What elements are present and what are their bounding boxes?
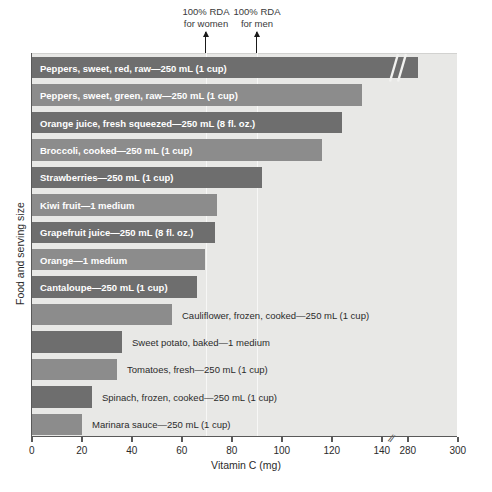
rda-men-annotation: 100% RDA for men [222, 6, 292, 29]
x-axis-tick-label: 80 [226, 445, 237, 456]
bar [32, 331, 122, 353]
bar-label: Cauliflower, frozen, cooked—250 mL (1 cu… [182, 309, 369, 320]
bar-label: Marinara sauce—250 mL (1 cup) [92, 419, 231, 430]
bar-label: Grapefruit juice—250 mL (8 fl. oz.) [40, 227, 193, 238]
bar: Peppers, sweet, red, raw—250 mL (1 cup) [32, 57, 418, 79]
rda-women-arrow-icon [205, 32, 206, 53]
x-axis-tick-label: 140 [373, 445, 390, 456]
rda-men-arrow-icon [256, 32, 257, 53]
x-axis-tick-label: 60 [176, 445, 187, 456]
bar: Kiwi fruit—1 medium [32, 194, 217, 216]
x-axis-tick-label: 0 [29, 445, 35, 456]
x-axis-tick-label: 280 [399, 445, 416, 456]
x-axis-tick [181, 437, 183, 442]
bar-label: Peppers, sweet, green, raw—250 mL (1 cup… [40, 90, 238, 101]
rda-men-line1: 100% RDA [222, 6, 292, 18]
bar: Orange—1 medium [32, 249, 205, 271]
rda-women-gridline [206, 53, 207, 436]
x-axis-tick [457, 437, 459, 442]
rda-men-gridline [257, 53, 258, 436]
bar: Broccoli, cooked—250 mL (1 cup) [32, 139, 322, 161]
x-axis-tick-label: 120 [323, 445, 340, 456]
bar-label: Sweet potato, baked—1 medium [132, 337, 270, 348]
bar-label: Cantaloupe—250 mL (1 cup) [40, 282, 168, 293]
bar-label: Broccoli, cooked—250 mL (1 cup) [40, 145, 192, 156]
bar-label: Tomatoes, fresh—250 mL (1 cup) [127, 364, 268, 375]
bar-label: Orange—1 medium [40, 254, 127, 265]
x-axis-tick-label: 20 [76, 445, 87, 456]
x-axis-tick [231, 437, 233, 442]
bar [32, 414, 82, 436]
bar: Strawberries—250 mL (1 cup) [32, 167, 262, 189]
bar: Orange juice, fresh squeezed—250 mL (8 f… [32, 112, 342, 134]
x-axis-label: Vitamin C (mg) [0, 459, 492, 471]
x-axis-tick [407, 437, 409, 442]
bar-label: Spinach, frozen, cooked—250 mL (1 cup) [102, 391, 277, 402]
bar [32, 386, 92, 408]
bar-label: Kiwi fruit—1 medium [40, 199, 134, 210]
plot-area: Peppers, sweet, red, raw—250 mL (1 cup)P… [31, 53, 457, 437]
bar [32, 359, 117, 381]
bar-label: Strawberries—250 mL (1 cup) [40, 172, 173, 183]
x-axis-tick-label: 40 [126, 445, 137, 456]
plot-top-edge [32, 53, 457, 54]
x-axis-tick [381, 437, 383, 442]
chart-figure: 100% RDA for women 100% RDA for men Pepp… [0, 0, 492, 492]
bar-label: Orange juice, fresh squeezed—250 mL (8 f… [40, 117, 255, 128]
x-axis-tick [131, 437, 133, 442]
x-axis-tick [331, 437, 333, 442]
y-axis-label: Food and serving size [14, 202, 26, 305]
x-axis-tick-label: 100 [273, 445, 290, 456]
x-axis-tick-label: 300 [449, 445, 466, 456]
bar: Grapefruit juice—250 mL (8 fl. oz.) [32, 222, 215, 244]
x-axis-tick [81, 437, 83, 442]
rda-men-line2: for men [222, 18, 292, 30]
bar [32, 304, 172, 326]
bar: Cantaloupe—250 mL (1 cup) [32, 276, 197, 298]
x-axis-tick [281, 437, 283, 442]
bar-label: Peppers, sweet, red, raw—250 mL (1 cup) [40, 62, 227, 73]
x-axis-tick [31, 437, 33, 442]
bar: Peppers, sweet, green, raw—250 mL (1 cup… [32, 84, 362, 106]
